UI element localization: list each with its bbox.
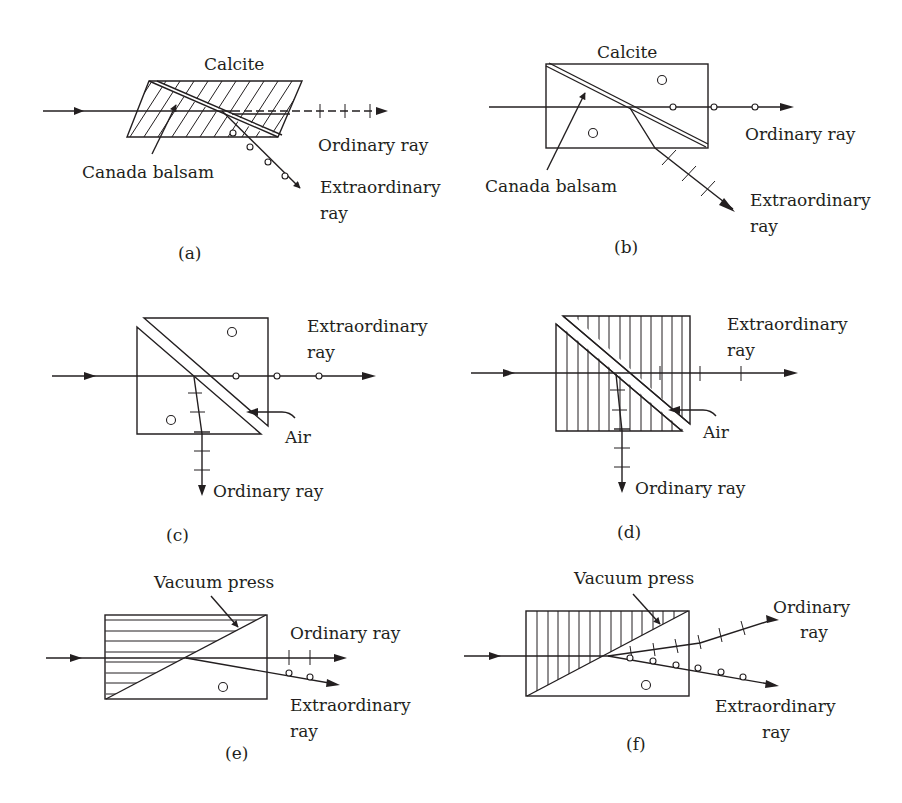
extraordinary-ray-label-2: ray (762, 722, 790, 742)
ordinary-ray-label: Ordinary ray (745, 124, 856, 144)
panel-c: Air Extraordinary ray Ordinary ray (c) (52, 316, 428, 545)
caption-f: (f) (626, 734, 646, 754)
extraordinary-ray-label: Extraordinary (715, 696, 836, 716)
extraordinary-ray-label: Extraordinary (727, 314, 848, 334)
extraordinary-ray (608, 656, 775, 685)
extraordinary-ray-label-2: ray (320, 203, 348, 223)
extraordinary-ray-label: Extraordinary (320, 177, 441, 197)
ordinary-ray-label: Ordinary ray (318, 135, 429, 155)
vacuum-press-label: Vacuum press (573, 568, 694, 588)
canada-balsam-pointer (547, 93, 585, 170)
caption-d: (d) (617, 522, 641, 542)
caption-c: (c) (166, 525, 189, 545)
vacuum-press-pointer (633, 594, 660, 624)
diagonal-interface (106, 615, 266, 699)
calcite-hatching (100, 78, 322, 140)
diagonal-interface (527, 611, 688, 696)
ordinary-ray-label: Ordinary ray (635, 478, 746, 498)
panel-a: Calcite (43, 54, 441, 263)
ordinary-ray (608, 620, 772, 656)
upper-prism (144, 318, 268, 426)
panel-b: Calcite Canada balsam Ordinary ray Extra… (485, 42, 871, 257)
canada-balsam-label: Canada balsam (485, 176, 617, 196)
canada-balsam-pointer (152, 105, 176, 154)
panel-e: Vacuum press Ordinary ray Extraordinary … (46, 572, 411, 763)
extraordinary-ray (186, 658, 335, 684)
vertical-hatching (537, 605, 674, 700)
ordinary-ray-label-2: ray (800, 622, 828, 642)
extraordinary-ray-label-2: ray (750, 216, 778, 236)
extraordinary-ray-label-2: ray (727, 340, 755, 360)
extraordinary-ray-label: Extraordinary (307, 316, 428, 336)
caption-a: (a) (178, 243, 201, 263)
panel-d: Air Extraordinary ray Ordinary ray (d) (471, 310, 848, 542)
extraordinary-ray (630, 108, 733, 209)
lower-prism (137, 327, 261, 434)
calcite-label: Calcite (204, 54, 264, 74)
air-label: Air (284, 427, 312, 447)
ordinary-ray-label: Ordinary (773, 597, 851, 617)
ordinary-ray-label: Ordinary ray (213, 481, 324, 501)
extraordinary-ray-label: Extraordinary (290, 695, 411, 715)
vacuum-press-label: Vacuum press (153, 572, 274, 592)
extraordinary-ray-label-2: ray (290, 721, 318, 741)
panel-f: Vacuum press (464, 568, 851, 754)
caption-e: (e) (225, 743, 248, 763)
calcite-label: Calcite (597, 42, 657, 62)
caption-b: (b) (614, 237, 638, 257)
extraordinary-ray-label-2: ray (307, 342, 335, 362)
polarizing-prisms-figure: Calcite (0, 0, 902, 803)
vacuum-press-pointer (211, 596, 238, 627)
air-label: Air (702, 422, 730, 442)
canada-balsam-label: Canada balsam (82, 162, 214, 182)
extraordinary-ray-label: Extraordinary (750, 190, 871, 210)
ordinary-ray-label: Ordinary ray (290, 623, 401, 643)
